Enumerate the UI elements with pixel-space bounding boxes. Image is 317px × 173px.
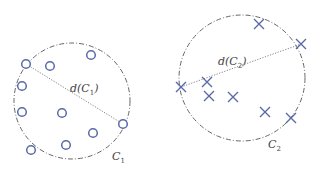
data-point-cross-icon — [204, 91, 214, 101]
cluster-c1-boundary — [14, 43, 130, 159]
data-point-cross-icon — [176, 82, 186, 92]
data-point-circle-icon — [18, 82, 27, 91]
data-point-cross-icon — [260, 107, 270, 117]
data-point-cross-icon — [296, 39, 306, 49]
data-point-circle-icon — [18, 108, 27, 117]
cluster-c1-label: C1 — [112, 150, 125, 165]
data-point-cross-icon — [228, 92, 238, 102]
cluster-c1-points — [18, 51, 128, 155]
data-point-circle-icon — [119, 120, 128, 129]
data-point-circle-icon — [27, 146, 36, 155]
data-point-circle-icon — [87, 51, 96, 60]
cluster-c1-diameter-label: d(C1) — [70, 82, 99, 97]
data-point-circle-icon — [58, 109, 67, 118]
cluster-c2-diameter-label: d(C2) — [218, 55, 247, 70]
data-point-cross-icon — [202, 77, 212, 87]
data-point-cross-icon — [254, 19, 264, 29]
cluster-c2-points — [176, 19, 306, 123]
cluster-c2: d(C2) C2 — [176, 15, 306, 153]
data-point-circle-icon — [62, 141, 71, 150]
data-point-cross-icon — [286, 113, 296, 123]
cluster-c1: d(C1) C1 — [14, 43, 130, 165]
data-point-circle-icon — [22, 60, 31, 69]
cluster-diagram: d(C1) C1 d(C2) C2 — [0, 0, 317, 173]
data-point-circle-icon — [46, 62, 55, 71]
data-point-circle-icon — [89, 129, 98, 138]
cluster-c2-label: C2 — [268, 138, 281, 153]
